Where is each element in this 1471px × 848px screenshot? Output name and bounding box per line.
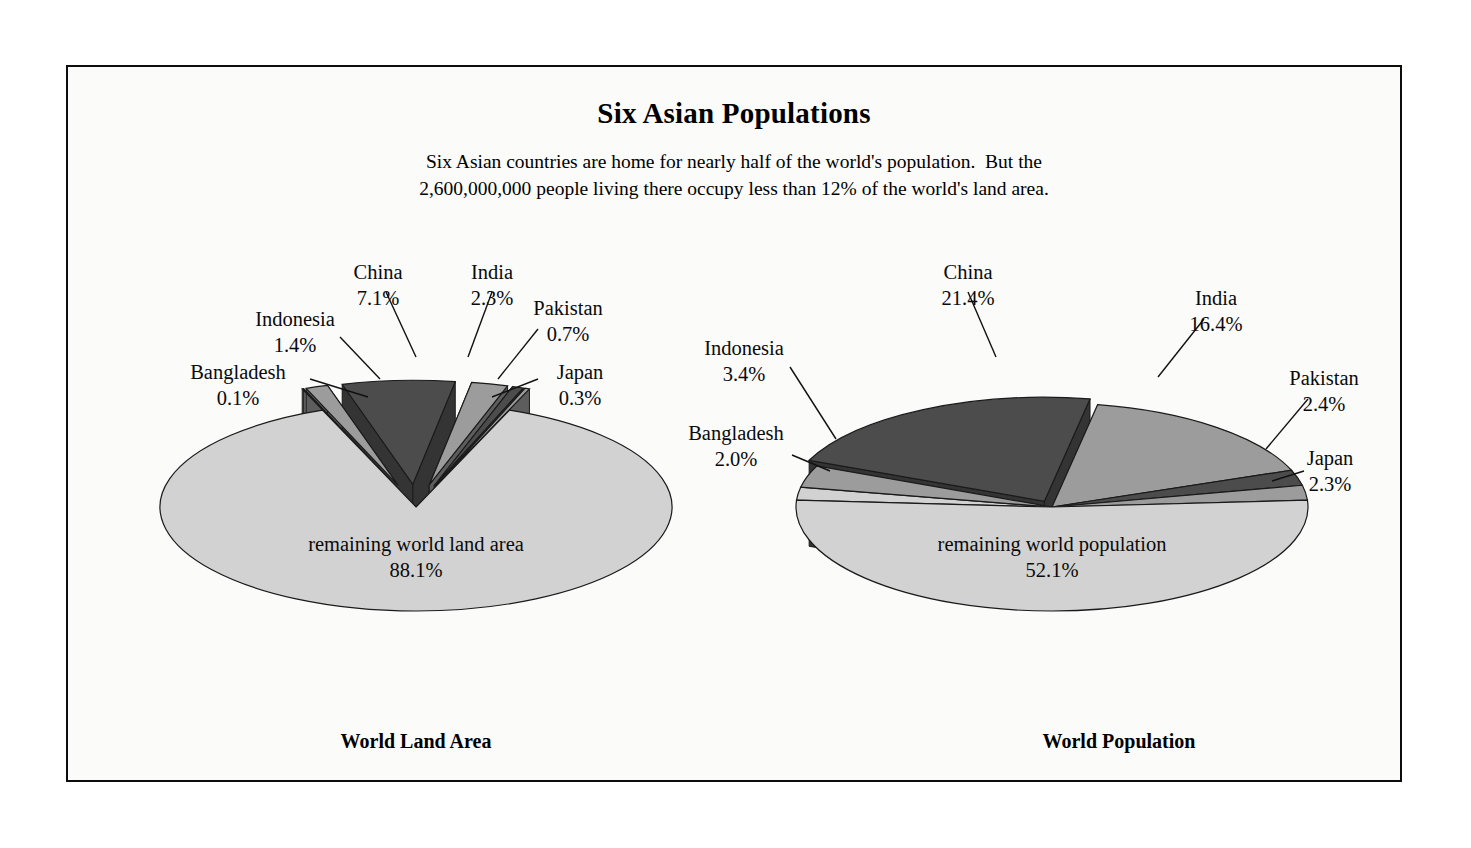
callout-value: 1.4%	[274, 334, 317, 356]
caption-world-land-area: World Land Area	[216, 730, 616, 753]
callout-bangladesh: Bangladesh0.1%	[190, 361, 368, 409]
pie-slice-remaining-world-population[interactable]	[796, 500, 1308, 611]
callout-india: India16.4%	[1158, 287, 1242, 377]
callout-name: India	[471, 261, 513, 283]
callout-value: 3.4%	[723, 363, 766, 385]
leader-line	[340, 337, 380, 379]
callout-name: Pakistan	[1289, 367, 1358, 389]
callout-pakistan: Pakistan2.4%	[1266, 367, 1359, 449]
leader-line	[790, 367, 836, 439]
center-label-value: 88.1%	[390, 559, 443, 581]
callout-value: 16.4%	[1190, 313, 1243, 335]
leader-line	[498, 329, 538, 379]
callout-india: India2.3%	[468, 261, 513, 357]
callout-name: India	[1195, 287, 1237, 309]
pie-chart-world-land-area: remaining world land area88.1%Bangladesh…	[160, 261, 672, 611]
callout-value: 0.3%	[559, 387, 602, 409]
callout-name: China	[354, 261, 403, 283]
center-label-name: remaining world land area	[308, 533, 524, 556]
callout-value: 21.4%	[942, 287, 995, 309]
callout-name: Japan	[557, 361, 604, 384]
callout-value: 2.4%	[1303, 393, 1346, 415]
callout-name: Pakistan	[533, 297, 602, 319]
callout-name: Japan	[1307, 447, 1354, 470]
callout-name: Bangladesh	[190, 361, 286, 384]
callout-name: Indonesia	[704, 337, 784, 359]
pie-charts-plot-area: remaining world land area88.1%Bangladesh…	[68, 67, 1404, 784]
callout-value: 2.3%	[1309, 473, 1352, 495]
callout-china: China21.4%	[942, 261, 996, 357]
callout-value: 7.1%	[357, 287, 400, 309]
callout-name: China	[944, 261, 993, 283]
callout-name: Bangladesh	[688, 422, 784, 445]
callout-value: 0.1%	[217, 387, 260, 409]
callout-china: China7.1%	[354, 261, 416, 357]
caption-world-population: World Population	[919, 730, 1319, 753]
center-label-value: 52.1%	[1026, 559, 1079, 581]
center-label-name: remaining world population	[938, 533, 1167, 556]
callout-name: Indonesia	[255, 308, 335, 330]
callout-value: 0.7%	[547, 323, 590, 345]
callout-value: 2.0%	[715, 448, 758, 470]
figure-card: Six Asian Populations Six Asian countrie…	[66, 65, 1402, 782]
callout-value: 2.3%	[471, 287, 514, 309]
pie-chart-world-population: remaining world population52.1%Banglades…	[688, 261, 1359, 611]
